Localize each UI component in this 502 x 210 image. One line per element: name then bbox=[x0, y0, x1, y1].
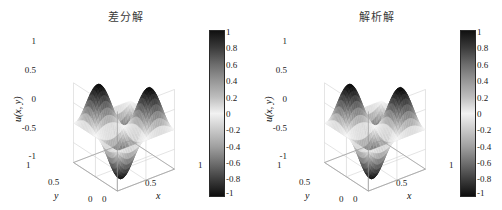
cbar-right-tick-5: 0 bbox=[477, 109, 482, 119]
z-tick-right-1: -0.5 bbox=[259, 123, 287, 133]
cbar-right-tick-3: 0.4 bbox=[477, 76, 488, 86]
x-tick-right-1: 0.5 bbox=[396, 178, 407, 188]
panel-left-axes bbox=[40, 30, 205, 185]
y-tick-left-1: 0.5 bbox=[48, 177, 59, 187]
x-tick-left-2: 1 bbox=[198, 160, 203, 170]
cbar-left-tick-10: -1 bbox=[226, 188, 234, 198]
x-tick-left-0: 0 bbox=[102, 194, 107, 204]
cbar-right-tick-4: 0.2 bbox=[477, 93, 488, 103]
cbar-right-tick-10: -1 bbox=[477, 188, 485, 198]
z-tick-right-4: 1 bbox=[265, 36, 287, 46]
z-tick-left-1: -0.5 bbox=[8, 123, 36, 133]
y-tick-left-2: 1 bbox=[26, 160, 31, 170]
surface-mesh bbox=[74, 84, 175, 179]
z-tick-left-0: -1 bbox=[8, 151, 36, 161]
cbar-left-tick-1: 0.8 bbox=[226, 43, 237, 53]
colorbar-left-ticks: 1 0.8 0.6 0.4 0.2 0 -0.2 -0.4 -0.6 -0.8 … bbox=[226, 30, 250, 195]
y-axis-label-left: y bbox=[54, 190, 58, 201]
surface-plot-right bbox=[291, 30, 456, 185]
z-tick-right-0: -1 bbox=[259, 151, 287, 161]
cbar-right-tick-1: 0.8 bbox=[477, 43, 488, 53]
colorbar-right: 1 0.8 0.6 0.4 0.2 0 -0.2 -0.4 -0.6 -0.8 … bbox=[460, 30, 500, 195]
cbar-left-tick-7: -0.4 bbox=[226, 142, 240, 152]
x-axis-label-left: x bbox=[156, 190, 160, 201]
cbar-right-tick-0: 1 bbox=[477, 27, 482, 37]
cbar-left-tick-6: -0.2 bbox=[226, 125, 240, 135]
cbar-right-tick-8: -0.6 bbox=[477, 158, 491, 168]
cbar-left-tick-3: 0.4 bbox=[226, 76, 237, 86]
cbar-right-tick-9: -0.8 bbox=[477, 174, 491, 184]
panel-right: 解析解 1 0.5 0 -0.5 -1 u(x, y) 1 0.5 0 y 0 … bbox=[251, 0, 502, 210]
panel-right-axes bbox=[291, 30, 456, 185]
surface-mesh bbox=[325, 84, 426, 179]
y-tick-right-0: 0 bbox=[339, 194, 344, 204]
z-axis-label-right: u(x, y) bbox=[263, 96, 274, 122]
x-axis-label-right: x bbox=[407, 190, 411, 201]
z-axis-label-left: u(x, y) bbox=[12, 96, 23, 122]
y-axis-label-right: y bbox=[305, 190, 309, 201]
y-tick-left-0: 0 bbox=[88, 194, 93, 204]
panel-right-title: 解析解 bbox=[251, 8, 502, 24]
cbar-left-tick-0: 1 bbox=[226, 27, 231, 37]
colorbar-left-gradient bbox=[209, 30, 225, 197]
cbar-left-tick-8: -0.6 bbox=[226, 158, 240, 168]
cbar-right-tick-7: -0.4 bbox=[477, 142, 491, 152]
colorbar-right-ticks: 1 0.8 0.6 0.4 0.2 0 -0.2 -0.4 -0.6 -0.8 … bbox=[477, 30, 501, 195]
panel-left: 差分解 1 0.5 0 -0.5 -1 u(x, y) 1 0.5 0 y 0 … bbox=[0, 0, 251, 210]
x-tick-right-2: 1 bbox=[449, 160, 454, 170]
z-tick-right-3: 0.5 bbox=[259, 65, 287, 75]
colorbar-right-gradient bbox=[460, 30, 476, 197]
cbar-right-tick-2: 0.6 bbox=[477, 60, 488, 70]
surface-plot-left bbox=[40, 30, 205, 185]
panel-left-title: 差分解 bbox=[0, 8, 251, 24]
cbar-left-tick-9: -0.8 bbox=[226, 174, 240, 184]
cbar-right-tick-6: -0.2 bbox=[477, 125, 491, 135]
colorbar-left: 1 0.8 0.6 0.4 0.2 0 -0.2 -0.4 -0.6 -0.8 … bbox=[209, 30, 249, 195]
x-tick-right-0: 0 bbox=[353, 194, 358, 204]
z-tick-left-3: 0.5 bbox=[8, 65, 36, 75]
y-tick-right-1: 0.5 bbox=[299, 177, 310, 187]
figure-container: 差分解 1 0.5 0 -0.5 -1 u(x, y) 1 0.5 0 y 0 … bbox=[0, 0, 502, 210]
cbar-left-tick-2: 0.6 bbox=[226, 60, 237, 70]
cbar-left-tick-4: 0.2 bbox=[226, 93, 237, 103]
y-tick-right-2: 1 bbox=[277, 160, 282, 170]
cbar-left-tick-5: 0 bbox=[226, 109, 231, 119]
x-tick-left-1: 0.5 bbox=[145, 178, 156, 188]
z-tick-left-4: 1 bbox=[14, 36, 36, 46]
